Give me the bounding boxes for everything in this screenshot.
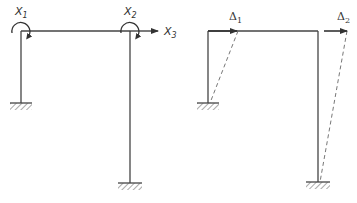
right-frame: Δ1 Δ2 xyxy=(197,10,350,189)
fixed-support-icon xyxy=(118,183,142,190)
fixed-support-icon xyxy=(197,103,219,110)
x2-label: X2 xyxy=(123,5,137,20)
deflected-left-column xyxy=(210,31,238,103)
x1-label: X1 xyxy=(14,5,28,20)
fixed-support-icon xyxy=(306,182,330,189)
left-frame: X1 X2 X3 xyxy=(10,5,177,190)
delta2-label: Δ2 xyxy=(337,10,350,25)
frame-diagram: X1 X2 X3 Δ1 xyxy=(0,0,357,203)
x3-label: X3 xyxy=(163,25,177,40)
deflected-right-column xyxy=(320,31,347,182)
delta1-label: Δ1 xyxy=(229,10,242,25)
fixed-support-icon xyxy=(10,103,32,110)
